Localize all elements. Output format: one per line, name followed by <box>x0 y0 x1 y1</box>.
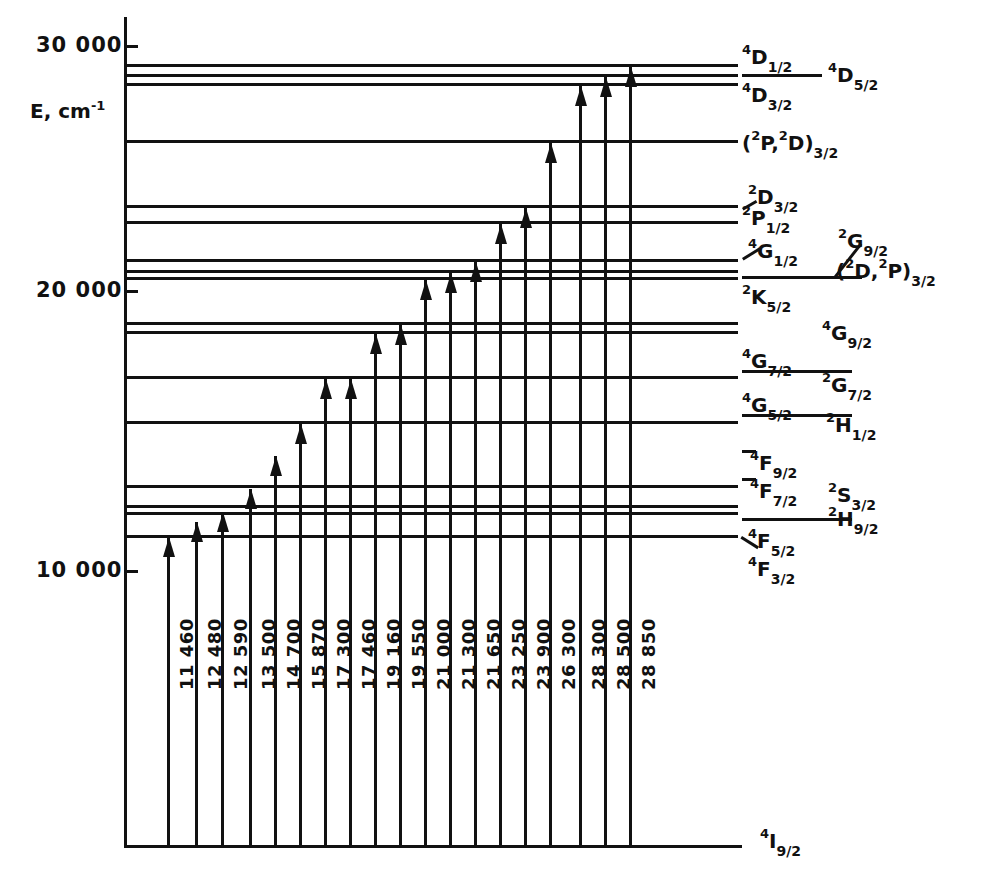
y-axis-tick-30000 <box>124 45 138 48</box>
wavenumber-label: 21 650 <box>483 618 504 690</box>
y-axis-title: E, cm-1 <box>30 98 105 123</box>
term-letter: D <box>751 83 768 107</box>
transition-arrow-head <box>625 67 637 87</box>
transition-arrow-head <box>217 512 229 532</box>
energy-level-line <box>124 74 738 77</box>
term-letter: S <box>837 483 851 507</box>
term-letter: P) <box>887 259 911 283</box>
term-j-value: 1/2 <box>852 427 877 443</box>
transition-arrow-head <box>270 456 282 476</box>
wavenumber-label: 23 250 <box>508 618 529 690</box>
transition-line <box>399 325 402 845</box>
transition-arrow-head <box>420 280 432 300</box>
y-axis-label-20000: 20 000 <box>36 278 118 302</box>
term-j-value: 7/2 <box>847 387 872 403</box>
energy-level-line <box>124 322 738 325</box>
wavenumber-label: 28 500 <box>613 618 634 690</box>
energy-level-line <box>124 64 738 67</box>
term-multiplicity: 2 <box>751 128 760 143</box>
wavenumber-label: 12 480 <box>204 618 225 690</box>
term-letter: P, <box>760 131 779 155</box>
y-axis-label-30000: 30 000 <box>36 33 118 57</box>
transition-arrow-head <box>320 379 332 399</box>
transition-line <box>524 208 527 845</box>
energy-level-line <box>124 331 738 334</box>
transition-arrow-head <box>545 143 557 163</box>
transition-line <box>579 86 582 845</box>
wavenumber-label: 19 160 <box>383 618 404 690</box>
term-label: 4D3/2 <box>742 82 792 110</box>
wavenumber-label: 14 700 <box>283 618 304 690</box>
y-axis-label-10000: 10 000 <box>36 558 118 582</box>
term-label: 4I9/2 <box>760 828 801 856</box>
y-axis-tick-20000 <box>124 290 138 293</box>
energy-level-line <box>124 221 738 224</box>
energy-level-line <box>124 505 738 508</box>
energy-level-line <box>124 845 740 848</box>
term-multiplicity: 2 <box>826 410 835 425</box>
term-multiplicity: 2 <box>828 504 837 519</box>
transition-arrow-head <box>445 273 457 293</box>
term-letter: F <box>759 479 773 503</box>
transition-arrow-head <box>191 522 203 542</box>
leader-4g7half <box>742 370 852 373</box>
term-multiplicity: 4 <box>748 526 757 541</box>
wavenumber-label: 28 850 <box>638 618 659 690</box>
term-j-value: 1/2 <box>768 59 793 75</box>
term-letter: D <box>751 45 768 69</box>
term-letter: ( <box>742 131 751 155</box>
transition-arrow-head <box>470 262 482 282</box>
energy-level-diagram: 30 000 20 000 10 000 E, cm-1 11 46012 48… <box>0 0 983 882</box>
energy-level-line <box>124 421 738 424</box>
term-letter: F <box>759 451 773 475</box>
wavenumber-label: 28 300 <box>588 618 609 690</box>
transition-arrow-head <box>370 334 382 354</box>
term-label-dp-3half: (2D,2P)3/2 <box>836 258 936 286</box>
y-axis-title-exponent: -1 <box>91 98 105 113</box>
transition-line <box>499 224 502 845</box>
term-multiplicity: 2 <box>742 282 751 297</box>
energy-level-line <box>124 270 738 273</box>
y-axis-tick-10000 <box>124 570 138 573</box>
term-multiplicity: 2 <box>878 256 887 271</box>
term-j-value: 5/2 <box>854 77 879 93</box>
transition-line <box>604 77 607 845</box>
transition-line <box>449 273 452 845</box>
term-multiplicity: 2 <box>748 182 757 197</box>
transition-arrow-head <box>600 77 612 97</box>
term-j-value: 1/2 <box>773 253 798 269</box>
transition-arrow-head <box>395 325 407 345</box>
term-letter: D) <box>788 131 814 155</box>
term-multiplicity: 2 <box>779 128 788 143</box>
term-multiplicity: 4 <box>742 390 751 405</box>
term-j-value: 9/2 <box>777 843 802 859</box>
wavenumber-label: 26 300 <box>558 618 579 690</box>
leader-slant-4f9half <box>742 450 756 453</box>
term-j-value: 3/2 <box>771 571 796 587</box>
transition-line <box>349 379 352 845</box>
term-label: 2G7/2 <box>822 372 872 400</box>
energy-level-line <box>124 140 738 143</box>
term-j-value: 1/2 <box>766 220 791 236</box>
term-j-value: 5/2 <box>767 299 792 315</box>
term-multiplicity: 4 <box>822 318 831 333</box>
term-j-value: 3/2 <box>768 97 793 113</box>
term-letter: G <box>831 373 847 397</box>
energy-level-line <box>124 259 738 262</box>
transition-line <box>167 537 170 845</box>
transition-line <box>549 143 552 845</box>
y-axis-title-text: E, cm <box>30 99 91 123</box>
wavenumber-label: 11 460 <box>176 618 197 690</box>
transition-arrow-head <box>495 224 507 244</box>
transition-line <box>324 379 327 845</box>
term-multiplicity: 4 <box>760 826 769 841</box>
wavenumber-label: 21 000 <box>433 618 454 690</box>
transition-arrow-head <box>520 208 532 228</box>
leader-4g5half <box>742 414 852 417</box>
term-j-value: 3/2 <box>911 273 936 289</box>
term-letter: K <box>751 285 767 309</box>
term-label: 2P1/2 <box>742 205 790 233</box>
term-label: 4D5/2 <box>828 62 878 90</box>
wavenumber-label: 15 870 <box>308 618 329 690</box>
term-multiplicity: 4 <box>742 42 751 57</box>
